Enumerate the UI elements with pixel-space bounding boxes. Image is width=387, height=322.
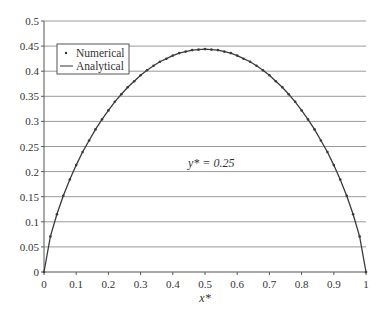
numerical-data-point	[172, 54, 175, 57]
numerical-data-point	[287, 93, 290, 96]
chart-svg: 00.050.10.150.20.250.30.350.40.450.5 00.…	[0, 0, 387, 322]
x-axis-label: x*	[198, 291, 210, 305]
numerical-data-point	[56, 213, 59, 216]
numerical-data-point	[81, 151, 84, 154]
numerical-data-point	[133, 80, 136, 83]
numerical-data-point	[262, 69, 265, 72]
x-tick-label: 0.5	[198, 278, 212, 290]
numerical-data-point	[268, 74, 271, 77]
numerical-data-point	[107, 109, 110, 112]
numerical-data-point	[320, 139, 323, 142]
numerical-data-point	[352, 213, 355, 216]
numerical-data-point	[236, 54, 239, 57]
numerical-data-point	[126, 86, 129, 89]
numerical-data-point	[120, 93, 123, 96]
numerical-data-point	[152, 64, 155, 67]
y-tick-label: 0.3	[25, 115, 39, 127]
numerical-data-point	[294, 101, 297, 104]
y-axis-tick-labels: 00.050.10.150.20.250.30.350.40.450.5	[20, 15, 44, 278]
legend: Numerical Analytical	[57, 44, 129, 74]
y-tick-label: 0.4	[25, 65, 39, 77]
numerical-data-point	[365, 271, 368, 274]
y-tick-label: 0.5	[25, 15, 39, 27]
legend-numerical-dot-icon	[65, 52, 67, 54]
y-tick-label: 0.35	[20, 90, 40, 102]
y-tick-label: 0.15	[20, 191, 40, 203]
numerical-data-point	[43, 271, 46, 274]
x-tick-label: 1	[363, 278, 369, 290]
numerical-data-point	[146, 69, 149, 72]
x-tick-label: 0.2	[102, 278, 116, 290]
numerical-data-point	[358, 235, 361, 238]
numerical-data-point	[197, 48, 200, 51]
numerical-data-point	[139, 74, 142, 77]
numerical-data-point	[230, 52, 233, 55]
numerical-data-point	[191, 49, 194, 52]
annotation-label: y* = 0.25	[187, 156, 234, 170]
x-tick-label: 0.7	[263, 278, 277, 290]
numerical-data-point	[345, 194, 348, 197]
x-axis-tick-labels: 00.10.20.30.40.50.60.70.80.91	[41, 272, 369, 290]
y-tick-label: 0.45	[20, 40, 40, 52]
numerical-data-point	[159, 60, 162, 63]
annotation-text: y* = 0.25	[187, 156, 234, 170]
numerical-data-point	[333, 164, 336, 167]
y-tick-label: 0	[34, 266, 40, 278]
numerical-data-point	[249, 60, 252, 63]
y-tick-label: 0.1	[25, 216, 39, 228]
numerical-data-point	[69, 178, 72, 181]
numerical-data-point	[94, 128, 97, 131]
legend-numerical-label: Numerical	[76, 47, 125, 59]
numerical-data-point	[223, 50, 226, 53]
numerical-data-point	[62, 194, 65, 197]
numerical-data-point	[204, 48, 207, 51]
numerical-data-point	[281, 86, 284, 89]
numerical-data-point	[255, 64, 258, 67]
numerical-data-point	[300, 109, 303, 112]
x-tick-label: 0.1	[69, 278, 83, 290]
numerical-data-point	[178, 52, 181, 55]
x-tick-label: 0.4	[166, 278, 180, 290]
numerical-data-point	[101, 118, 104, 121]
numerical-data-point	[49, 235, 52, 238]
numerical-data-point	[88, 139, 91, 142]
numerical-data-point	[242, 57, 245, 60]
x-tick-label: 0.6	[230, 278, 244, 290]
numerical-data-point	[210, 48, 213, 51]
x-tick-label: 0	[41, 278, 47, 290]
numerical-data-point	[114, 101, 117, 104]
numerical-data-point	[165, 57, 168, 60]
x-tick-label: 0.8	[295, 278, 309, 290]
x-tick-label: 0.3	[134, 278, 148, 290]
numerical-data-point	[313, 128, 316, 131]
numerical-data-point	[75, 164, 78, 167]
numerical-data-point	[275, 80, 278, 83]
y-tick-label: 0.25	[20, 141, 40, 153]
numerical-data-point	[217, 49, 220, 52]
y-tick-label: 0.05	[20, 241, 40, 253]
chart-container: 00.050.10.150.20.250.30.350.40.450.5 00.…	[0, 0, 387, 322]
x-tick-label: 0.9	[327, 278, 341, 290]
y-tick-label: 0.2	[25, 166, 39, 178]
legend-analytical-label: Analytical	[76, 60, 124, 73]
numerical-data-point	[307, 118, 310, 121]
numerical-data-point	[326, 151, 329, 154]
numerical-data-point	[184, 50, 187, 53]
numerical-data-point	[339, 178, 342, 181]
